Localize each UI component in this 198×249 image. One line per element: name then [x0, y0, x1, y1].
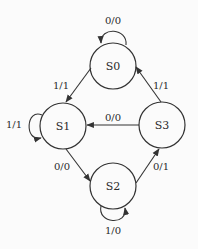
- self-loop-arrow: [101, 206, 126, 221]
- transition-s2-s2: 1/0: [101, 206, 126, 236]
- transition-label: 0/0: [105, 15, 121, 26]
- transition-label: 1/1: [53, 80, 69, 91]
- state-s0: S0: [90, 43, 136, 89]
- transition-label: 0/1: [153, 161, 169, 172]
- transition-s1-s1: 1/1: [6, 114, 42, 138]
- transition-label: 0/0: [105, 112, 121, 123]
- state-s2: S2: [90, 163, 136, 209]
- state-s0-label: S0: [106, 60, 121, 73]
- state-s3: S3: [139, 102, 185, 148]
- transition-arrow: [66, 68, 91, 102]
- transition-s2-s3: 0/1: [136, 149, 169, 183]
- transition-label: 1/0: [105, 225, 121, 236]
- transition-s3-s0: 1/1: [136, 67, 169, 102]
- transition-s0-s1: 1/1: [53, 68, 91, 102]
- transition-s1-s2: 0/0: [54, 149, 90, 181]
- transition-label: 1/1: [153, 80, 169, 91]
- transition-label: 0/0: [54, 161, 70, 172]
- state-s1-label: S1: [56, 120, 71, 133]
- transition-s0-s0: 0/0: [101, 15, 126, 46]
- transition-label: 1/1: [6, 119, 22, 130]
- state-s2-label: S2: [106, 180, 121, 193]
- transition-s3-s1: 0/0: [87, 112, 139, 126]
- state-s1: S1: [40, 103, 86, 149]
- state-diagram: S0 S1 S2 S3 0/0 1/1 1/1 0/0 1/0 0/1: [0, 0, 198, 249]
- state-s3-label: S3: [155, 119, 170, 132]
